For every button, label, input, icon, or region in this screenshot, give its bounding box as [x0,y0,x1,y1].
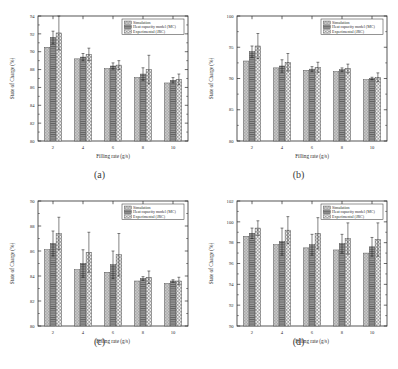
svg-text:86: 86 [30,85,35,90]
svg-text:8: 8 [341,330,344,335]
svg-text:84: 84 [30,103,35,108]
figure-root: 8082848688909294246810Filling rate (g/s)… [0,0,398,369]
svg-text:State of Charge (%): State of Charge (%) [9,58,16,100]
svg-text:92: 92 [229,303,234,308]
svg-text:Experimental (JRC): Experimental (JRC) [332,214,365,219]
svg-text:100: 100 [227,220,235,225]
panel-caption-a: (a) [0,169,199,180]
svg-text:Filling rate (g/s): Filling rate (g/s) [96,153,130,160]
svg-text:6: 6 [311,330,314,335]
svg-text:94: 94 [229,282,234,287]
svg-text:Experimental (JRC): Experimental (JRC) [133,29,166,34]
svg-text:82: 82 [30,121,35,126]
svg-text:8: 8 [142,330,145,335]
svg-text:6: 6 [311,145,314,150]
panel-caption-c: (c) [0,336,199,347]
svg-text:88: 88 [30,224,35,229]
svg-text:4: 4 [82,145,85,150]
svg-text:10: 10 [370,145,375,150]
svg-text:90: 90 [229,324,234,329]
svg-text:94: 94 [30,14,35,19]
svg-text:Filling rate (g/s): Filling rate (g/s) [295,153,329,160]
panel-caption-d: (d) [199,336,398,347]
svg-text:10: 10 [171,330,176,335]
svg-text:4: 4 [281,145,284,150]
svg-text:82: 82 [30,299,35,304]
svg-text:86: 86 [30,249,35,254]
svg-text:90: 90 [229,76,234,81]
svg-text:8: 8 [142,145,145,150]
svg-text:2: 2 [251,330,254,335]
svg-text:State of Charge (%): State of Charge (%) [208,58,215,100]
chart-panel-a: 8082848688909294246810Filling rate (g/s)… [0,0,199,184]
svg-text:80: 80 [30,139,35,144]
svg-text:2: 2 [251,145,254,150]
chart-panel-d: 9092949698100102246810Filling rate (g/s)… [199,185,398,369]
svg-text:92: 92 [30,32,35,37]
svg-text:4: 4 [281,330,284,335]
svg-text:6: 6 [112,330,115,335]
svg-text:State of Charge (%): State of Charge (%) [9,243,16,285]
svg-text:State of Charge (%): State of Charge (%) [208,243,215,285]
svg-text:85: 85 [229,107,234,112]
svg-text:Experimental (JRC): Experimental (JRC) [332,29,365,34]
svg-text:96: 96 [229,261,234,266]
plot-area-a: 8082848688909294246810Filling rate (g/s)… [0,0,199,184]
svg-text:10: 10 [171,145,176,150]
plot-area-b: 80859095100246810Filling rate (g/s)State… [199,0,398,184]
svg-text:6: 6 [112,145,115,150]
chart-panel-b: 80859095100246810Filling rate (g/s)State… [199,0,398,184]
svg-text:Experimental (JRC): Experimental (JRC) [133,214,166,219]
svg-text:2: 2 [52,145,55,150]
svg-text:84: 84 [30,274,35,279]
svg-text:102: 102 [227,199,235,204]
svg-text:98: 98 [229,240,234,245]
svg-text:90: 90 [30,199,35,204]
chart-panel-c: 808284868890246810Filling rate (g/s)Stat… [0,185,199,369]
svg-text:95: 95 [229,45,234,50]
panel-caption-b: (b) [199,169,398,180]
svg-text:80: 80 [229,139,234,144]
svg-text:2: 2 [52,330,55,335]
svg-text:4: 4 [82,330,85,335]
svg-text:88: 88 [30,67,35,72]
svg-text:80: 80 [30,324,35,329]
svg-text:100: 100 [227,14,235,19]
svg-text:10: 10 [370,330,375,335]
svg-text:8: 8 [341,145,344,150]
svg-text:90: 90 [30,49,35,54]
